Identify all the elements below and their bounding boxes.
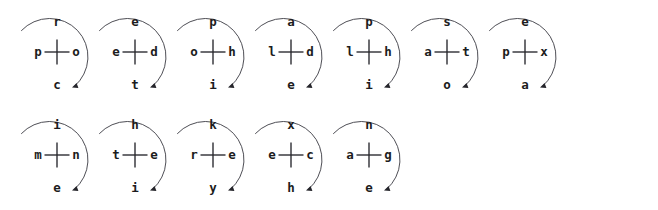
wheel-letter-top: n <box>360 119 378 132</box>
wheel-letter-left: m <box>29 149 47 162</box>
wheel-letter-right: x <box>535 46 553 59</box>
wheel-letter-bottom: y <box>204 182 222 195</box>
wheel-letter-top: k <box>204 119 222 132</box>
wheel-letter-bottom: e <box>48 182 66 195</box>
wheel-letter-top: a <box>282 16 300 29</box>
wheel-letter-bottom: t <box>126 79 144 92</box>
wheel-letter-left: a <box>419 46 437 59</box>
wheel-letter-top: p <box>360 16 378 29</box>
wheel-letter-right: h <box>379 46 397 59</box>
wheel-letter-bottom: c <box>48 79 66 92</box>
wheel-letter-top: r <box>48 16 66 29</box>
wheel-letter-top: s <box>438 16 456 29</box>
wheel-letter-left: e <box>263 149 281 162</box>
wheel-letter-right: e <box>223 149 241 162</box>
wheel-letter-left: r <box>185 149 203 162</box>
cipher-wheel-diagram: rpoceedtpohialdeplhisatoepxa imnehteikre… <box>0 0 658 210</box>
wheel-letter-right: h <box>223 46 241 59</box>
wheel-letter-left: p <box>29 46 47 59</box>
cipher-wheel-cell: nage <box>328 103 420 208</box>
wheel-letter-left: a <box>341 149 359 162</box>
wheel-letter-bottom: i <box>204 79 222 92</box>
wheel-letter-right: d <box>145 46 163 59</box>
wheel-letter-bottom: o <box>438 79 456 92</box>
wheel-letter-bottom: i <box>360 79 378 92</box>
wheel-letter-right: c <box>301 149 319 162</box>
wheel-letter-top: e <box>126 16 144 29</box>
wheel-letter-bottom: e <box>360 182 378 195</box>
wheel-letter-left: o <box>185 46 203 59</box>
wheel-letter-right: e <box>145 149 163 162</box>
cipher-wheel-cell: epxa <box>484 0 576 105</box>
cipher-wheel-row: imnehteikreyxechnage <box>0 103 658 208</box>
wheel-letter-bottom: a <box>516 79 534 92</box>
wheel-letter-right: d <box>301 46 319 59</box>
wheel-letter-right: t <box>457 46 475 59</box>
wheel-letter-right: n <box>67 149 85 162</box>
wheel-letter-right: o <box>67 46 85 59</box>
wheel-letter-left: e <box>107 46 125 59</box>
wheel-letter-left: l <box>341 46 359 59</box>
wheel-letter-bottom: i <box>126 182 144 195</box>
cipher-wheel-row: rpoceedtpohialdeplhisatoepxa <box>0 0 658 105</box>
wheel-letter-top: h <box>126 119 144 132</box>
wheel-letter-top: p <box>204 16 222 29</box>
wheel-letter-left: l <box>263 46 281 59</box>
wheel-letter-top: i <box>48 119 66 132</box>
wheel-letter-bottom: e <box>282 79 300 92</box>
wheel-letter-left: p <box>497 46 515 59</box>
wheel-letter-top: e <box>516 16 534 29</box>
wheel-letter-bottom: h <box>282 182 300 195</box>
wheel-letter-left: t <box>107 149 125 162</box>
wheel-letter-top: x <box>282 119 300 132</box>
wheel-letter-right: g <box>379 149 397 162</box>
